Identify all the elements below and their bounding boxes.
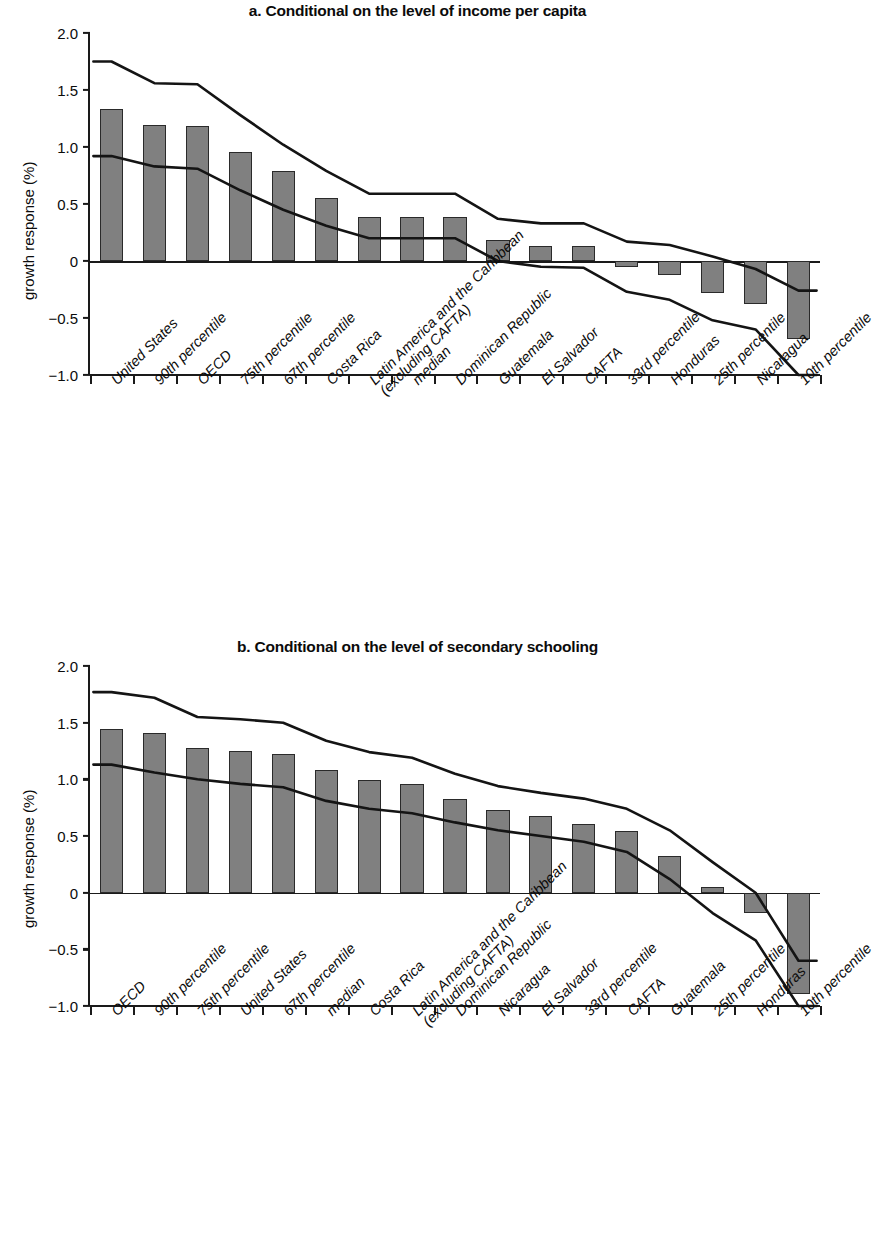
bar [358, 217, 381, 261]
y-tick-mark [83, 665, 90, 667]
bar [186, 748, 209, 893]
y-tick-mark [83, 89, 90, 91]
y-tick-label: −1.0 [32, 998, 90, 1015]
y-tick-label: 0.5 [32, 828, 90, 845]
bar [100, 109, 123, 261]
y-tick-label: 1.5 [32, 82, 90, 99]
panel-b-x-axis-labels: OECD90th percentile75th percentileUnited… [88, 1011, 818, 1201]
panel-a-chart: a. Conditional on the level of income pe… [0, 0, 835, 600]
y-tick-label: 0 [32, 253, 90, 270]
y-tick-label: 2.0 [32, 25, 90, 42]
bar [143, 733, 166, 893]
y-tick-label: 0 [32, 884, 90, 901]
panel-b-title: b. Conditional on the level of secondary… [0, 638, 835, 656]
bar [358, 780, 381, 892]
bar [229, 152, 252, 261]
y-tick-mark [83, 146, 90, 148]
y-tick-mark [83, 32, 90, 34]
y-tick-mark [83, 892, 90, 894]
bar [315, 770, 338, 892]
y-tick-label: 1.0 [32, 771, 90, 788]
x-tick-mark [820, 375, 822, 384]
panel-b-plot-area: 2.01.51.00.50−0.5−1.0 [88, 666, 820, 1006]
y-tick-label: 2.0 [32, 658, 90, 675]
bar [443, 799, 466, 893]
bar [787, 261, 810, 339]
y-tick-mark [83, 317, 90, 319]
bar [272, 754, 295, 892]
bar [701, 887, 724, 893]
bar [143, 125, 166, 261]
y-tick-label: 1.5 [32, 714, 90, 731]
bar [100, 729, 123, 892]
panel-b-y-axis-label: growth response (%) [20, 790, 37, 928]
y-tick-mark [83, 203, 90, 205]
panel-b-chart: b. Conditional on the level of secondary… [0, 628, 835, 1238]
y-tick-label: −0.5 [32, 941, 90, 958]
bar [658, 856, 681, 892]
panel-b-zero-line [90, 893, 820, 895]
y-tick-label: −0.5 [32, 310, 90, 327]
bar [744, 261, 767, 304]
bar [701, 261, 724, 293]
panel-a-x-axis-labels: United States90th percentileOECD75th per… [88, 380, 818, 570]
bar [186, 126, 209, 261]
bar [400, 784, 423, 893]
y-tick-label: −1.0 [32, 367, 90, 384]
bar [572, 246, 595, 261]
bar [272, 171, 295, 261]
panel-a-title: a. Conditional on the level of income pe… [0, 2, 835, 20]
bar [615, 261, 638, 267]
y-tick-mark [83, 778, 90, 780]
y-tick-mark [83, 948, 90, 950]
bar [229, 751, 252, 893]
y-tick-mark [83, 835, 90, 837]
bar [315, 198, 338, 261]
bar [443, 217, 466, 261]
y-tick-mark [83, 722, 90, 724]
y-tick-mark [83, 1005, 90, 1007]
y-tick-mark [83, 260, 90, 262]
bar [615, 831, 638, 892]
x-tick-mark [820, 1006, 822, 1015]
y-tick-label: 1.0 [32, 139, 90, 156]
panel-a-y-axis-label: growth response (%) [20, 162, 37, 300]
bar [658, 261, 681, 275]
bar [400, 217, 423, 261]
bar [744, 893, 767, 913]
y-tick-mark [83, 374, 90, 376]
bar [486, 810, 509, 893]
y-tick-label: 0.5 [32, 196, 90, 213]
